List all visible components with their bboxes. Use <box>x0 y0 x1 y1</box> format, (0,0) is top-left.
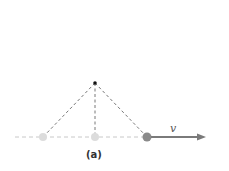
velocity-label: v <box>170 122 176 135</box>
figure-caption: (a) <box>86 149 102 160</box>
pivot-point <box>93 81 97 85</box>
velocity-arrow-head-icon <box>197 134 206 141</box>
string-right <box>95 83 147 137</box>
ghost-ball-middle <box>91 133 99 141</box>
pendulum-diagram <box>0 0 229 171</box>
active-ball <box>143 133 152 142</box>
ghost-ball-left <box>39 133 47 141</box>
string-left <box>43 83 95 137</box>
